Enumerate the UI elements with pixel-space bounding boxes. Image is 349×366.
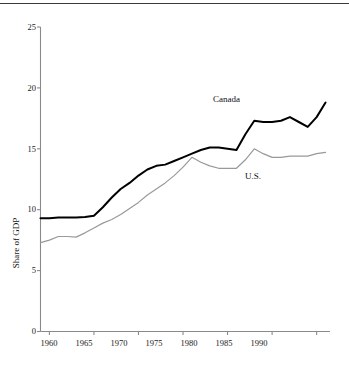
- x-tick-label-1965: 1965: [69, 338, 99, 348]
- chart-figure: 25 20 15 10 5 0 1960 1965 1970 1975 1980…: [0, 0, 349, 366]
- y-tick-label-25: 25: [14, 22, 36, 32]
- x-tick-label-1975: 1975: [139, 338, 169, 348]
- line-chart-plot: [0, 0, 349, 366]
- chart-series: [41, 103, 326, 243]
- y-tick-label-0: 0: [14, 326, 36, 336]
- y-tick-label-15: 15: [14, 144, 36, 154]
- y-axis-label: Share of GDP: [11, 203, 21, 283]
- x-tick-label-1960: 1960: [34, 338, 64, 348]
- chart-axes: [37, 27, 330, 335]
- x-tick-label-1980: 1980: [174, 338, 204, 348]
- series-label-canada: Canada: [213, 94, 240, 104]
- series-label-us: U.S.: [245, 171, 261, 181]
- x-tick-label-1990: 1990: [244, 338, 274, 348]
- x-tick-label-1985: 1985: [209, 338, 239, 348]
- x-tick-label-1970: 1970: [104, 338, 134, 348]
- y-tick-label-20: 20: [14, 83, 36, 93]
